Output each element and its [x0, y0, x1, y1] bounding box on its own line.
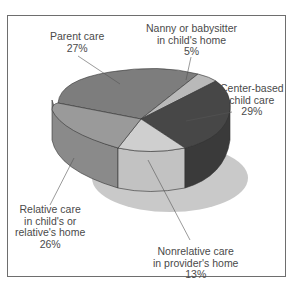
- label-center-based: Center-based child care 29%: [220, 83, 284, 118]
- label-line: Relative care: [15, 204, 85, 216]
- label-nonrelative: Nonrelative care in provider's home 13%: [153, 246, 238, 281]
- label-line: relative's home: [15, 227, 85, 239]
- label-value: 27%: [50, 43, 104, 55]
- slice-side-nonrelative: [118, 148, 185, 192]
- label-relative: Relative care in child's or relative's h…: [15, 204, 85, 250]
- label-line: Nonrelative care: [153, 246, 238, 258]
- label-value: 26%: [15, 239, 85, 251]
- label-value: 13%: [153, 269, 238, 281]
- leader-relative: [50, 158, 74, 205]
- label-value: 29%: [220, 106, 284, 118]
- label-value: 5%: [146, 46, 237, 58]
- label-line: Parent care: [50, 31, 104, 43]
- label-nanny: Nanny or babysitter in child's home 5%: [146, 23, 237, 58]
- label-line: Center-based: [220, 83, 284, 95]
- label-line: Nanny or babysitter: [146, 23, 237, 35]
- label-parent-care: Parent care 27%: [50, 31, 104, 54]
